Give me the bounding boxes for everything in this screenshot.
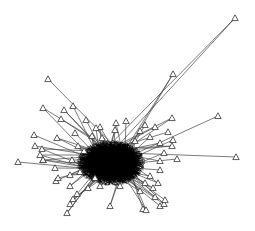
triangle-node-icon (174, 156, 180, 162)
triangle-node-icon (31, 132, 37, 138)
core-fill (86, 147, 137, 179)
triangle-node-icon (157, 140, 163, 146)
triangle-node-icon (15, 159, 21, 165)
triangle-node-icon (152, 124, 158, 130)
triangle-node-icon (61, 107, 67, 113)
triangle-node-icon (64, 210, 70, 216)
triangle-node-icon (169, 115, 175, 121)
triangle-node-icon (155, 180, 161, 186)
triangle-node-icon (70, 103, 76, 109)
triangle-node-icon (113, 120, 119, 126)
graph-nodes (15, 15, 239, 216)
triangle-node-icon (45, 76, 51, 82)
triangle-node-icon (40, 105, 46, 111)
triangle-node-icon (72, 130, 78, 136)
dense-core-cluster (77, 140, 146, 185)
triangle-node-icon (58, 116, 64, 122)
triangle-node-icon (123, 118, 129, 124)
triangle-node-icon (215, 113, 221, 119)
graph-edges (18, 18, 236, 213)
triangle-node-icon (169, 143, 175, 149)
triangle-node-icon (165, 129, 171, 135)
triangle-node-icon (107, 203, 113, 209)
triangle-node-icon (232, 15, 238, 21)
triangle-node-icon (170, 71, 176, 77)
network-graph (0, 0, 255, 231)
triangle-node-icon (161, 150, 167, 156)
triangle-node-icon (162, 197, 168, 203)
triangle-node-icon (137, 128, 143, 134)
graph-edge (103, 18, 235, 162)
triangle-node-icon (54, 135, 60, 141)
triangle-node-icon (32, 143, 38, 149)
